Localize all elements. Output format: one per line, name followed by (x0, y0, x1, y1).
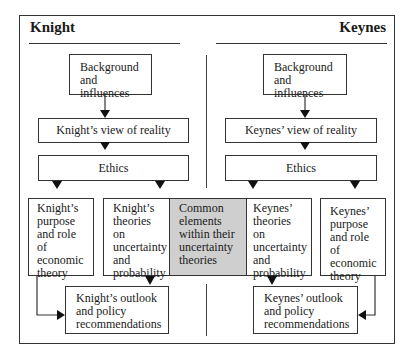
connector-arrows (0, 0, 411, 363)
